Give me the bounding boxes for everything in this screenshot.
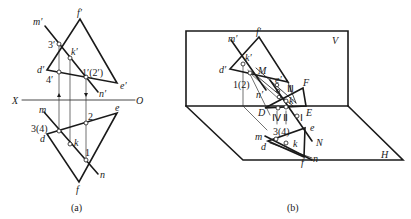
axis-label-x: X	[11, 95, 19, 106]
label-4-prime: 4′	[46, 74, 53, 85]
arrow-up-icon	[57, 93, 61, 97]
point-1	[84, 158, 88, 162]
label-k-prime: k′	[71, 46, 78, 57]
label-d: d	[40, 133, 46, 144]
line-df-edge	[270, 143, 312, 158]
figure-b: V H m′	[186, 26, 403, 214]
point-i	[295, 114, 299, 118]
label-N: N	[315, 137, 324, 148]
label-f-prime: f′	[256, 26, 262, 37]
label-3-prime: 3′	[48, 39, 55, 50]
point-3-4	[274, 137, 278, 141]
label-f: f	[76, 184, 80, 195]
label-plane-v: V	[332, 35, 340, 46]
label-e-prime: e′	[275, 74, 282, 85]
label-I: Ⅰ	[300, 112, 303, 123]
label-d-prime: d′	[37, 64, 45, 75]
label-e: e	[115, 102, 120, 113]
point-k-space	[284, 99, 288, 103]
label-n-prime: n′	[99, 88, 107, 99]
label-D: D	[257, 107, 266, 118]
point-1-2-prime	[248, 71, 252, 75]
caption-b: (b)	[287, 202, 299, 214]
descriptive-geometry-figure: m′ f′ 3′ k′ d′ 1′(2′) 4′ e′ n′ X O m e 2…	[0, 0, 411, 219]
label-k: k	[293, 138, 298, 149]
label-m: m	[39, 104, 46, 115]
caption-a: (a)	[71, 202, 82, 214]
point-3-4	[57, 129, 61, 133]
label-IV: Ⅳ	[272, 112, 282, 123]
label-M: M	[257, 65, 267, 76]
point-ii	[284, 105, 288, 109]
label-e-prime: e′	[120, 80, 127, 91]
label-plane-h: H	[380, 149, 389, 160]
label-n: n	[313, 153, 318, 164]
label-n: n	[100, 169, 105, 180]
label-f-prime: f′	[77, 7, 83, 18]
label-d-prime: d′	[219, 64, 227, 75]
triangle-def-top-view	[47, 113, 117, 182]
label-1-2-prime: 1′(2′)	[82, 67, 103, 79]
label-3-4: 3(4)	[273, 126, 290, 138]
label-1-2: 1(2)	[233, 79, 250, 91]
figure-a: m′ f′ 3′ k′ d′ 1′(2′) 4′ e′ n′ X O m e 2…	[11, 7, 143, 214]
point-iv	[276, 106, 280, 110]
label-d: d	[261, 141, 267, 152]
label-E: E	[305, 107, 312, 118]
label-m-prime: m′	[228, 33, 238, 44]
label-n-prime: n′	[256, 89, 264, 100]
label-2: 2	[88, 111, 93, 122]
label-k-prime: k′	[245, 52, 252, 63]
plane-v	[186, 31, 348, 106]
label-e: e	[310, 122, 315, 133]
label-F: F	[302, 77, 310, 88]
label-II: Ⅱ	[283, 112, 288, 123]
arrow-down-icon	[84, 93, 88, 97]
point-3-prime	[57, 42, 61, 46]
label-1: 1	[85, 147, 90, 158]
label-K-space: k	[289, 95, 294, 106]
label-f: f	[301, 157, 305, 168]
point-4-prime	[57, 70, 61, 74]
label-k: k	[74, 137, 79, 148]
axis-label-o: O	[136, 95, 143, 106]
point-k	[284, 141, 288, 145]
point-k	[68, 142, 72, 146]
label-III: Ⅲ	[287, 83, 294, 94]
label-m-prime: m′	[33, 16, 43, 27]
